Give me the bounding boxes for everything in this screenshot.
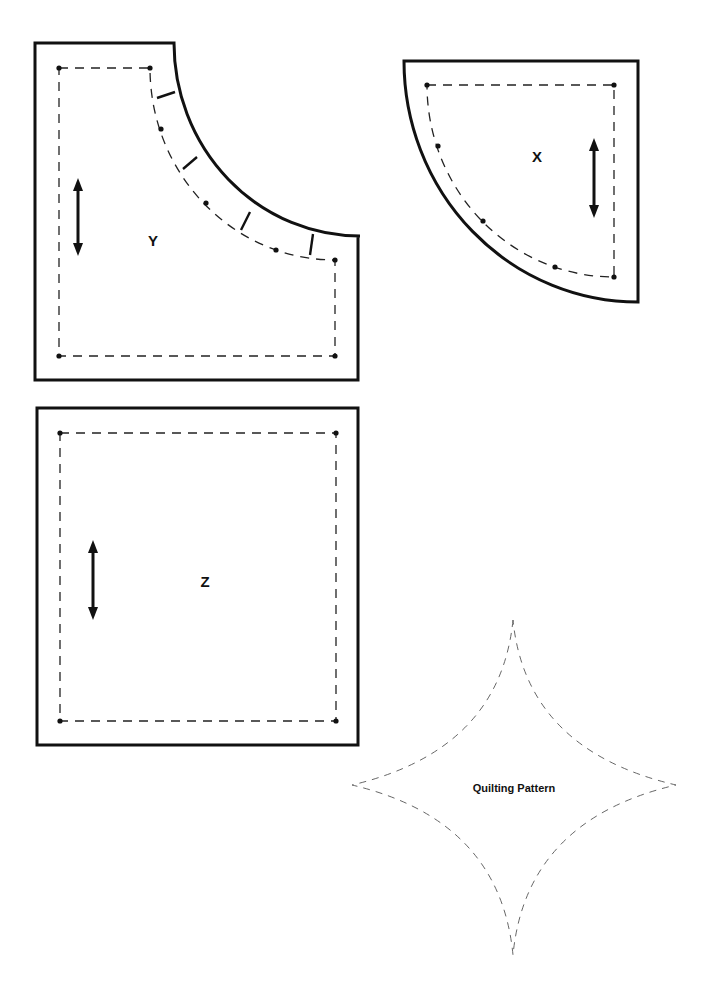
pattern-sheet: Y X: [0, 0, 708, 981]
quilting-pattern: Quilting Pattern: [352, 620, 676, 955]
piece-y-corner-dots: [56, 65, 337, 358]
grain-arrow-icon: [73, 178, 83, 256]
piece-x-seam-line: [427, 85, 614, 277]
grain-arrow-icon: [589, 138, 599, 218]
piece-z: Z: [37, 408, 358, 745]
piece-y-label: Y: [148, 232, 158, 249]
quilting-pattern-label: Quilting Pattern: [473, 782, 556, 794]
piece-y-notches: [157, 92, 313, 255]
piece-z-outline: [37, 408, 358, 745]
piece-z-corner-dots: [57, 430, 338, 723]
grain-arrow-icon: [88, 540, 98, 620]
piece-y-seam-line: [59, 68, 335, 356]
piece-y: Y: [35, 43, 360, 380]
piece-z-seam-line: [60, 433, 336, 721]
piece-x-outline: [404, 61, 638, 302]
piece-x-label: X: [532, 148, 542, 165]
piece-x-dots: [424, 82, 616, 279]
piece-x: X: [404, 61, 638, 302]
piece-y-outline: [35, 43, 360, 380]
piece-z-label: Z: [200, 573, 209, 590]
